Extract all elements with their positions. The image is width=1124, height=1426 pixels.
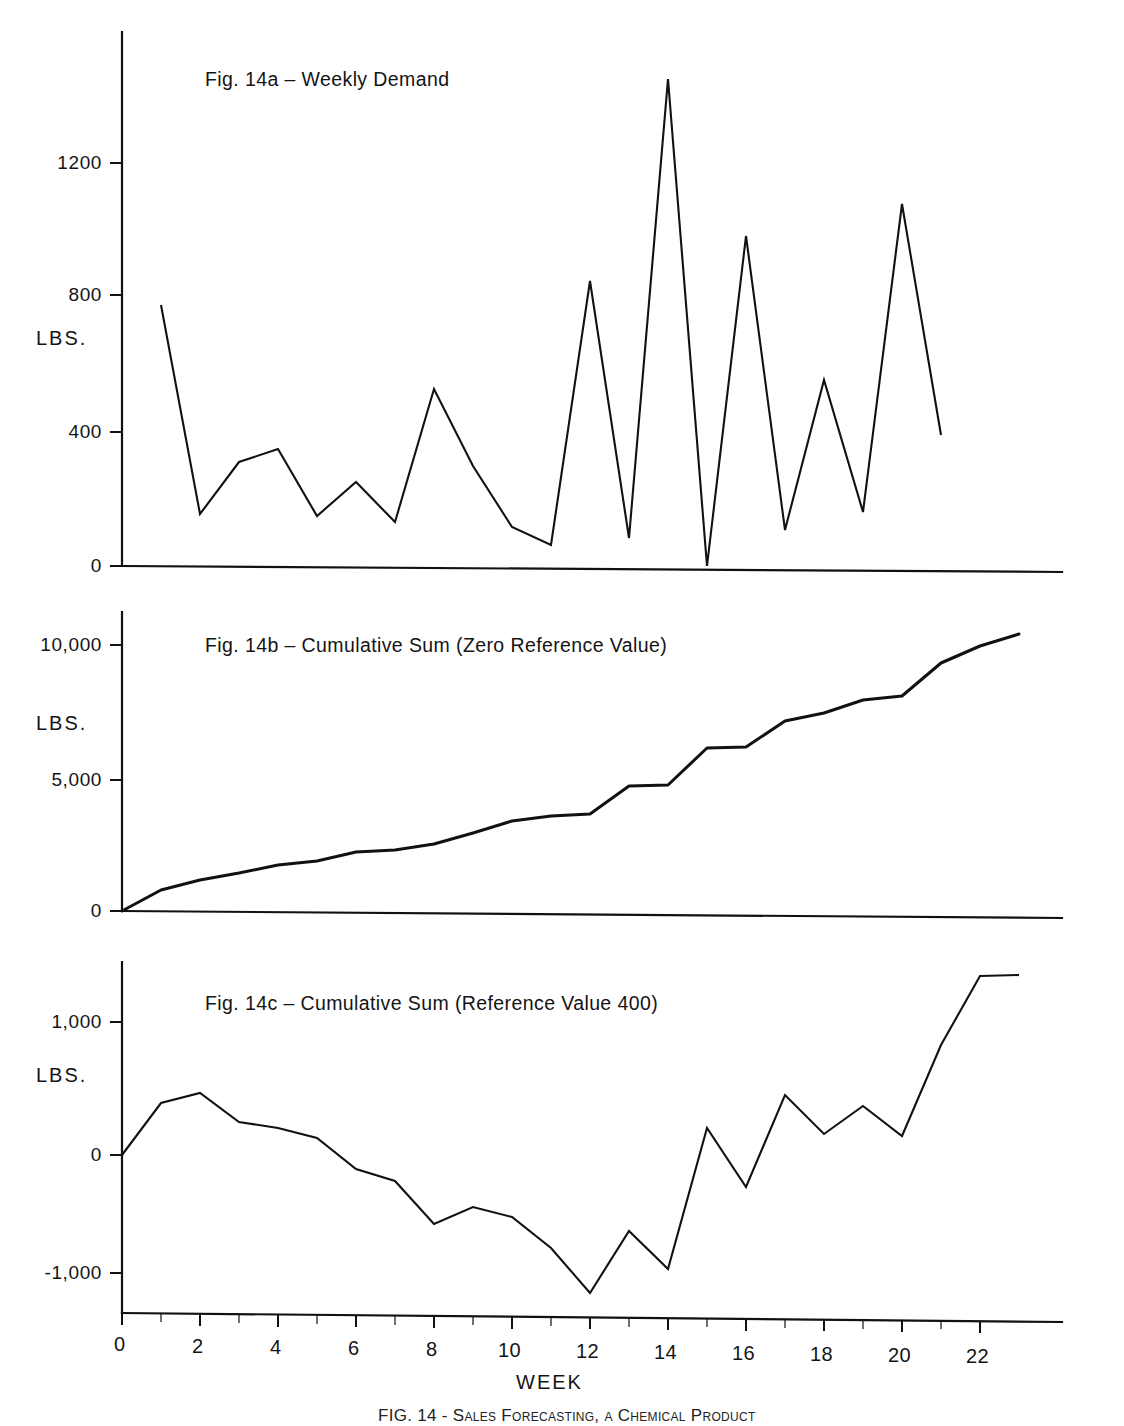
panel-14b-series-cumsum-zero bbox=[122, 634, 1019, 911]
panel-14c-ytick-neg1000: -1,000 bbox=[10, 1262, 102, 1284]
panel-14b-ytick-5000: 5,000 bbox=[16, 769, 102, 791]
xtick-label-2: 2 bbox=[192, 1335, 204, 1358]
xtick-label-22: 22 bbox=[966, 1345, 989, 1368]
panel-14a-ylabel: LBS. bbox=[36, 327, 87, 350]
panel-14c-title: Fig. 14c – Cumulative Sum (Reference Val… bbox=[205, 992, 658, 1015]
panel-14a-x-axis bbox=[122, 566, 1062, 572]
panel-14b-ytick-0: 0 bbox=[16, 900, 102, 922]
panel-14c-ytick-1000: 1,000 bbox=[16, 1011, 102, 1033]
xtick-label-16: 16 bbox=[732, 1342, 755, 1365]
xtick-label-20: 20 bbox=[888, 1344, 911, 1367]
panel-14b-x-axis bbox=[122, 911, 1062, 918]
x-axis-label-week: WEEK bbox=[516, 1371, 583, 1394]
panel-14b-axes bbox=[110, 612, 1062, 918]
panel-14b-title: Fig. 14b – Cumulative Sum (Zero Referenc… bbox=[205, 634, 667, 657]
panel-14a-title: Fig. 14a – Weekly Demand bbox=[205, 68, 449, 91]
xtick-label-0: 0 bbox=[114, 1333, 126, 1356]
xtick-label-14: 14 bbox=[654, 1341, 677, 1364]
panel-14c-x-ticks bbox=[122, 1313, 980, 1333]
panel-14c-ytick-0: 0 bbox=[16, 1144, 102, 1166]
panel-14c-axes bbox=[110, 962, 1062, 1333]
panel-14a-series-weekly-demand bbox=[161, 79, 941, 566]
xtick-label-10: 10 bbox=[498, 1339, 521, 1362]
xtick-label-4: 4 bbox=[270, 1336, 282, 1359]
panel-14a-ytick-0: 0 bbox=[40, 555, 102, 577]
xtick-label-6: 6 bbox=[348, 1337, 360, 1360]
xtick-label-18: 18 bbox=[810, 1343, 833, 1366]
xtick-label-12: 12 bbox=[576, 1340, 599, 1363]
figure-caption: FIG. 14 - Sales Forecasting, a Chemical … bbox=[378, 1406, 756, 1426]
panel-14b-ytick-10000: 10,000 bbox=[16, 634, 102, 656]
panel-14a-ytick-1200: 1200 bbox=[40, 152, 102, 174]
panel-14a-ytick-800: 800 bbox=[40, 284, 102, 306]
panel-14c-ylabel: LBS. bbox=[36, 1064, 87, 1087]
panel-14c-series-cumsum-ref400 bbox=[122, 975, 1019, 1293]
panel-14a-ytick-400: 400 bbox=[40, 421, 102, 443]
panel-14b-ylabel: LBS. bbox=[36, 712, 87, 735]
xtick-label-8: 8 bbox=[426, 1338, 438, 1361]
panel-14c-x-axis bbox=[122, 1313, 1062, 1322]
